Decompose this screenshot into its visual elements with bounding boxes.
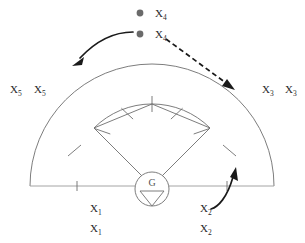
arrow-right-dashed: [166, 39, 235, 90]
arrow-left-curved-shaft: [80, 32, 133, 58]
label-x1-a-text: X: [90, 202, 98, 214]
arrow-bottom-curved: [211, 167, 238, 209]
label-x4-upper: X 4: [155, 7, 167, 22]
label-x3-b-text: X: [285, 83, 293, 95]
marker-dot-x4-upper: [137, 10, 144, 17]
label-x3-a-text: X: [262, 83, 270, 95]
arrow-bottom-curved-head: [230, 167, 238, 181]
label-x3-b: X 3: [285, 83, 297, 98]
label-x1-a: X 1: [90, 202, 102, 217]
diagram-canvas: G X 4 X 4 X 5 X 5 X 3 X 3 X 1 X 1: [0, 0, 305, 243]
label-x2-a-text: X: [200, 202, 208, 214]
label-x3-a: X 3: [262, 83, 274, 98]
label-x5-a: X 5: [10, 83, 22, 98]
label-x3-a-sub: 3: [270, 89, 274, 98]
label-x1-b-sub: 1: [98, 228, 102, 237]
label-x5-a-sub: 5: [18, 89, 22, 98]
label-x5-a-text: X: [10, 83, 18, 95]
label-x1-b-text: X: [90, 222, 98, 234]
side-tick-left: [68, 145, 81, 156]
inner-arc-tick-left-inner: [121, 108, 133, 119]
arrow-bottom-curved-shaft: [211, 177, 233, 209]
sector-chord-right: [152, 104, 210, 128]
label-x4-upper-sub: 4: [163, 13, 167, 22]
center-node-label: G: [148, 177, 155, 188]
side-tick-right: [223, 145, 236, 156]
inner-arc-tick-right-inner: [171, 108, 183, 119]
label-x1-a-sub: 1: [98, 208, 102, 217]
label-x1-b: X 1: [90, 222, 102, 237]
arrow-left-curved: [72, 32, 133, 66]
label-x4-lower-text: X: [155, 28, 163, 40]
label-x5-b-sub: 5: [42, 89, 46, 98]
label-x2-b-text: X: [200, 222, 208, 234]
arrow-left-curved-head: [72, 57, 84, 66]
label-x2-a: X 2: [200, 202, 212, 217]
arrow-right-dashed-head: [222, 79, 235, 90]
marker-dot-x4-lower: [137, 31, 144, 38]
outer-arc: [30, 64, 274, 186]
label-x2-b: X 2: [200, 222, 212, 237]
sector-chord-left: [94, 104, 152, 128]
label-x5-b-text: X: [34, 83, 42, 95]
arrow-right-dashed-shaft: [166, 39, 226, 83]
label-x4-upper-text: X: [155, 7, 163, 19]
label-x2-b-sub: 2: [208, 228, 212, 237]
label-x5-b: X 5: [34, 83, 46, 98]
label-x3-b-sub: 3: [293, 89, 297, 98]
label-x4-lower: X 4: [155, 28, 167, 43]
